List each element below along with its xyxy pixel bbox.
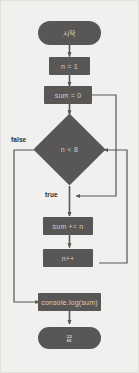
node-init-n-label: n = 1 [61, 63, 78, 70]
node-accumulate[interactable]: sum += n [43, 217, 93, 235]
edge-label-false: false [11, 137, 26, 144]
node-init-sum-label: sum = 0 [55, 92, 82, 99]
node-increment[interactable]: n++ [43, 249, 93, 267]
node-increment-label: n++ [62, 255, 75, 262]
edge-label-true: true [45, 192, 58, 199]
node-init-sum[interactable]: sum = 0 [44, 86, 92, 104]
flowchart-canvas: 시작 n = 1 sum = 0 n < 8 false true sum +=… [0, 0, 139, 373]
edge-condition-false-to-output [14, 150, 40, 302]
node-output[interactable]: console.log(sum) [38, 293, 101, 311]
node-accumulate-label: sum += n [53, 223, 84, 230]
node-output-label: console.log(sum) [41, 299, 98, 306]
node-start-label: 시작 [63, 30, 75, 37]
node-end[interactable]: 끝 [38, 327, 101, 349]
node-start[interactable]: 시작 [38, 21, 101, 45]
node-init-n[interactable]: n = 1 [49, 57, 90, 75]
node-condition[interactable]: n < 8 [44, 124, 95, 175]
node-end-label: 끝 [66, 335, 72, 342]
node-condition-label: n < 8 [61, 146, 78, 153]
edge-increment-to-condition [99, 150, 127, 263]
flowchart-connectors [0, 0, 139, 373]
